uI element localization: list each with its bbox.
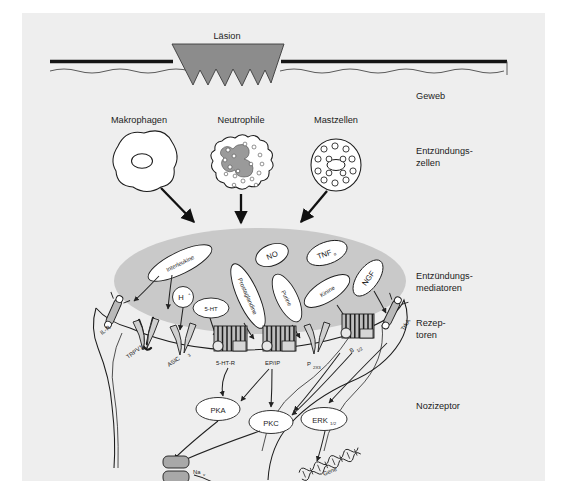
nociceptor-sensitization-diagram: Läsion Geweb Makrophagen Neutrophile Mas… bbox=[22, 13, 545, 481]
lesion-label: Läsion bbox=[213, 31, 240, 41]
receptor-5ht-r-icon: 5-HT-R bbox=[213, 326, 247, 366]
kinase-erk12-label: ERK bbox=[312, 416, 328, 425]
receptor-trpv1-label: TRPV1 bbox=[125, 344, 144, 360]
lesion-group: Läsion Geweb bbox=[50, 31, 507, 101]
mediators-section-label-line2: mediatoren bbox=[416, 283, 462, 293]
cells-section-label-line2: zellen bbox=[416, 158, 440, 168]
cells-section-label-line1: Entzündungs- bbox=[416, 146, 473, 156]
arrow-epip-to-pka bbox=[241, 369, 269, 401]
arrow-nav-downstream bbox=[194, 475, 228, 481]
macrophage-cell-icon bbox=[113, 131, 177, 192]
nav-channel-label: Na bbox=[193, 469, 201, 475]
inflammatory-cells-group: Makrophagen Neutrophile Mastzellen bbox=[111, 115, 473, 223]
arrow-pkc-to-nav bbox=[182, 431, 260, 461]
receptor-asic3-sub: 3 bbox=[187, 352, 192, 358]
receptor-trpv1-icon: TRPV1 bbox=[125, 318, 159, 360]
cell-label-neutrophil: Neutrophile bbox=[218, 115, 265, 125]
receptor-asic3-label: ASIC bbox=[166, 355, 181, 368]
receptor-ep-ip-icon: EP/IP bbox=[262, 326, 296, 366]
arrow-erk-to-gene bbox=[317, 431, 325, 461]
receptor-ep-ip-label: EP/IP bbox=[265, 360, 280, 366]
receptor-5ht-r-label: 5-HT-R bbox=[216, 360, 235, 366]
mediator-h-plus-sup: + bbox=[188, 291, 191, 296]
kinase-erk12: ERK 1/2 bbox=[301, 408, 347, 431]
mediator-5ht-label: 5-HT bbox=[204, 306, 217, 312]
nociceptor-label: Nozizeptor bbox=[416, 401, 460, 411]
nav-channel-sub: v bbox=[203, 472, 206, 477]
kinase-pkc-label: PKC bbox=[263, 419, 279, 428]
receptors-section-label-line1: Rezep- bbox=[416, 318, 446, 328]
cell-label-mastcell: Mastzellen bbox=[314, 115, 358, 125]
tissue-label: Geweb bbox=[416, 91, 445, 101]
neuron-inner-line-right2 bbox=[324, 325, 383, 451]
kinase-pka: PKA bbox=[196, 398, 240, 421]
receptor-trka-label: TrkA bbox=[400, 318, 412, 332]
receptor-p2x3-sub: 2X3 bbox=[313, 365, 321, 370]
mediator-5ht: 5-HT bbox=[193, 298, 229, 318]
mediator-h-plus: H + bbox=[173, 287, 194, 308]
arrow-pka-to-nav bbox=[174, 421, 218, 459]
arrow-5htr-to-pka bbox=[222, 368, 228, 396]
mast-cell-icon bbox=[311, 139, 361, 191]
arrow-epip-to-pkc bbox=[271, 369, 272, 407]
receptor-p2x3-label: P bbox=[307, 361, 311, 367]
arrow-macrophage-to-mediators bbox=[161, 188, 194, 222]
neuron-inner-line-left bbox=[112, 333, 122, 468]
kinase-pkc: PKC bbox=[249, 411, 293, 434]
gene-dna-icon: Gene bbox=[298, 445, 362, 481]
diagram-canvas: Läsion Geweb Makrophagen Neutrophile Mas… bbox=[0, 0, 567, 504]
lesion-shape-icon bbox=[172, 44, 284, 86]
kinase-erk12-sub: 1/2 bbox=[330, 421, 337, 426]
arrow-b12-to-pkc-2 bbox=[294, 353, 340, 411]
tissue-wave-left bbox=[50, 69, 190, 73]
nav-channel-icon: Na v bbox=[163, 456, 206, 481]
kinase-pka-label: PKA bbox=[210, 406, 226, 415]
cell-label-macrophage: Makrophagen bbox=[111, 115, 167, 125]
receptors-section-label-line2: toren bbox=[416, 330, 437, 340]
receptor-b12-icon: B 1/2 bbox=[341, 314, 374, 354]
receptor-b12-sub: 1/2 bbox=[356, 346, 364, 354]
diagram-panel: Läsion Geweb Makrophagen Neutrophile Mas… bbox=[22, 13, 545, 481]
mediators-section-label-line1: Entzündungs- bbox=[416, 271, 473, 281]
receptor-asic3-icon: ASIC 3 bbox=[166, 323, 196, 368]
arrow-mastcell-to-mediators bbox=[301, 191, 327, 222]
mediator-h-plus-label: H bbox=[178, 293, 183, 302]
neutrophil-cell-icon bbox=[211, 135, 273, 190]
tissue-wave-right bbox=[280, 69, 504, 73]
